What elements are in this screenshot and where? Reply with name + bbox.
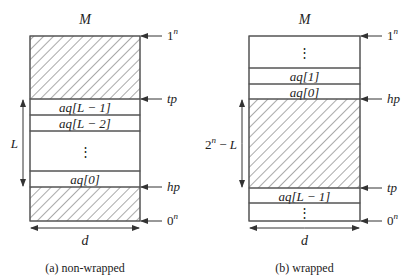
- slot-label: aq[0]: [290, 85, 320, 100]
- width-label: d: [82, 233, 90, 248]
- pointer-hp: hp: [141, 179, 181, 194]
- pointer-0-n: 0n: [141, 211, 179, 228]
- pointer-label: 0n: [387, 211, 399, 228]
- pointer-label: tp: [167, 91, 178, 106]
- pointer-tp: tp: [361, 180, 398, 195]
- pointer-0-n: 0n: [361, 211, 399, 228]
- diagram-caption: (a) non-wrapped: [45, 261, 125, 275]
- width-indicator: d: [31, 228, 139, 248]
- queue-slot: aq[0]: [249, 84, 360, 100]
- span-label: L: [10, 136, 18, 151]
- diagram-non-wrapped: aq[L − 1]aq[L − 2]⋮aq[0]M1ntphp0nLd(a) n…: [10, 12, 181, 275]
- slot-label: aq[0]: [70, 172, 100, 187]
- pointer-label: 0n: [167, 211, 179, 228]
- memory-title: M: [298, 12, 312, 27]
- hatched-region: [30, 36, 140, 99]
- slot-label: aq[L − 1]: [279, 189, 331, 204]
- pointer-label: 1n: [167, 26, 179, 43]
- queue-slot: aq[1]: [249, 68, 360, 84]
- diagram-caption: (b) wrapped: [275, 261, 333, 275]
- ellipsis-label: ⋮: [298, 205, 311, 220]
- queue-memory-diagram: aq[L − 1]aq[L − 2]⋮aq[0]M1ntphp0nLd(a) n…: [0, 0, 408, 280]
- memory-title: M: [78, 12, 92, 27]
- span-label: 2n − L: [205, 135, 237, 152]
- ellipsis-label: ⋮: [298, 45, 311, 60]
- pointer-label: 1n: [387, 26, 399, 43]
- pointer-hp: hp: [361, 91, 401, 106]
- slot-label: aq[L − 2]: [59, 116, 111, 131]
- slot-label: aq[1]: [290, 69, 320, 84]
- span-indicator: L: [10, 100, 23, 186]
- pointer-label: hp: [167, 179, 181, 194]
- slot-label: aq[L − 1]: [59, 100, 111, 115]
- queue-slot: ⋮: [249, 203, 360, 221]
- queue-slot: aq[0]: [30, 171, 140, 187]
- ellipsis-label: ⋮: [79, 144, 92, 159]
- span-indicator: 2n − L: [205, 100, 242, 187]
- pointer-1-n: 1n: [361, 26, 399, 43]
- pointer-label: hp: [387, 91, 401, 106]
- diagram-stage: aq[L − 1]aq[L − 2]⋮aq[0]M1ntphp0nLd(a) n…: [0, 0, 408, 280]
- pointer-tp: tp: [141, 91, 178, 106]
- pointer-1-n: 1n: [141, 26, 179, 43]
- queue-slot: aq[L − 1]: [249, 188, 360, 204]
- hatched-region: [30, 187, 140, 221]
- queue-slot: aq[L − 1]: [30, 99, 140, 115]
- diagram-wrapped: ⋮aq[1]aq[0]aq[L − 1]⋮M1nhptp0n2n − Ld(b)…: [205, 12, 401, 275]
- pointer-label: tp: [387, 180, 398, 195]
- queue-slot: ⋮: [30, 131, 140, 171]
- width-label: d: [301, 233, 309, 248]
- queue-slot: aq[L − 2]: [30, 115, 140, 131]
- width-indicator: d: [250, 228, 359, 248]
- queue-slot: ⋮: [249, 36, 360, 68]
- hatched-region: [249, 99, 360, 188]
